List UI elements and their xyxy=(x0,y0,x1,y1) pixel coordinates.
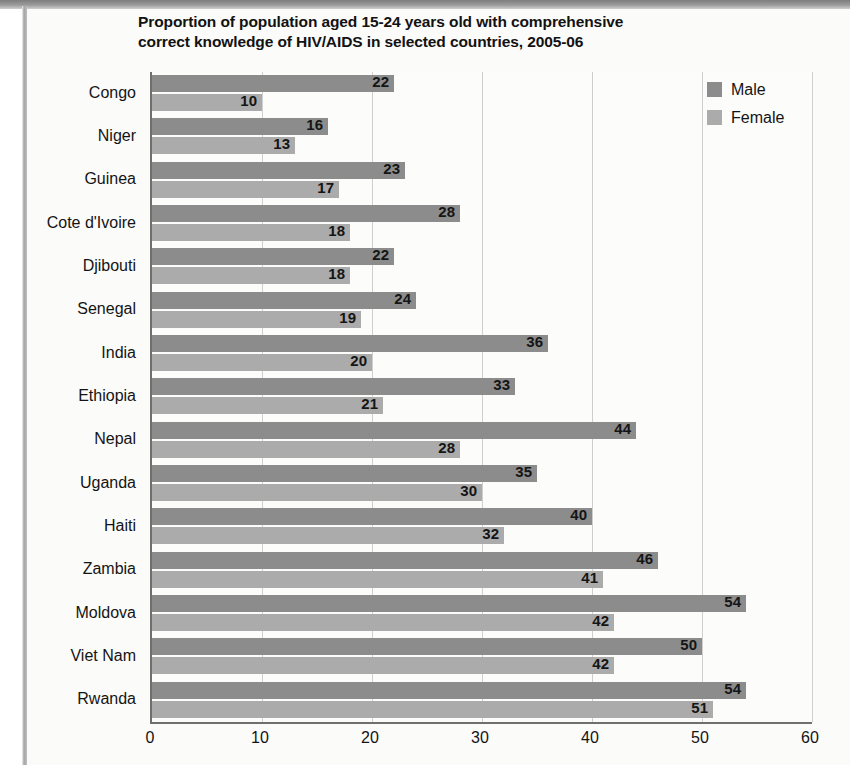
legend-swatch-icon xyxy=(707,82,722,97)
bar-value-label: 22 xyxy=(372,246,394,263)
bar-male xyxy=(152,465,537,482)
bar-value-label: 44 xyxy=(614,420,636,437)
bar-value-label: 36 xyxy=(526,333,548,350)
legend-item: Female xyxy=(707,108,827,127)
bar-value-label: 50 xyxy=(680,636,702,653)
bar-group: 2218 xyxy=(152,245,812,288)
bar-male xyxy=(152,205,460,222)
bar-male xyxy=(152,682,746,699)
legend-item: Male xyxy=(707,80,827,99)
bar-value-label: 30 xyxy=(460,482,482,499)
legend-label: Male xyxy=(731,81,766,99)
bar-value-label: 28 xyxy=(438,439,460,456)
bar-value-label: 28 xyxy=(438,203,460,220)
bar-value-label: 13 xyxy=(273,135,295,152)
bar-value-label: 10 xyxy=(240,92,262,109)
bar-group: 4032 xyxy=(152,505,812,548)
bar-group: 4428 xyxy=(152,419,812,462)
bar-group: 2818 xyxy=(152,202,812,245)
bar-female xyxy=(152,657,614,674)
bar-value-label: 42 xyxy=(592,655,614,672)
bar-male xyxy=(152,335,548,352)
country-label: Zambia xyxy=(0,560,136,578)
chart-legend: MaleFemale xyxy=(707,80,827,136)
x-tick-label: 10 xyxy=(251,729,269,747)
bar-female xyxy=(152,397,383,414)
bar-group: 3620 xyxy=(152,332,812,375)
country-label: Niger xyxy=(0,127,136,145)
country-label: Senegal xyxy=(0,300,136,318)
bar-group: 4641 xyxy=(152,549,812,592)
country-label: Cote d'Ivoire xyxy=(0,214,136,232)
bar-male xyxy=(152,638,702,655)
country-label: Haiti xyxy=(0,517,136,535)
country-label: Congo xyxy=(0,84,136,102)
bar-chart-figure: Proportion of population aged 15-24 year… xyxy=(0,0,850,765)
bar-female xyxy=(152,571,603,588)
country-label: Nepal xyxy=(0,430,136,448)
legend-label: Female xyxy=(731,109,784,127)
bar-male xyxy=(152,422,636,439)
bar-male xyxy=(152,118,328,135)
x-tick-label: 20 xyxy=(361,729,379,747)
gridline-60 xyxy=(812,72,813,722)
bar-value-label: 16 xyxy=(306,116,328,133)
bar-male xyxy=(152,552,658,569)
bar-female xyxy=(152,224,350,241)
country-label: Moldova xyxy=(0,604,136,622)
bar-group: 2317 xyxy=(152,159,812,202)
bar-value-label: 22 xyxy=(372,73,394,90)
country-label: Viet Nam xyxy=(0,647,136,665)
bar-value-label: 18 xyxy=(328,265,350,282)
country-label: Uganda xyxy=(0,474,136,492)
bar-female xyxy=(152,441,460,458)
bar-male xyxy=(152,292,416,309)
bar-value-label: 19 xyxy=(339,309,361,326)
bar-value-label: 35 xyxy=(515,463,537,480)
bar-group: 5042 xyxy=(152,635,812,678)
bar-male xyxy=(152,248,394,265)
country-label: Guinea xyxy=(0,170,136,188)
country-label: India xyxy=(0,344,136,362)
legend-swatch-icon xyxy=(707,110,722,125)
bar-value-label: 23 xyxy=(383,160,405,177)
bar-value-label: 32 xyxy=(482,525,504,542)
bar-value-label: 21 xyxy=(361,395,383,412)
bar-value-label: 46 xyxy=(636,550,658,567)
bar-group: 3321 xyxy=(152,375,812,418)
country-label: Ethiopia xyxy=(0,387,136,405)
bar-group: 5442 xyxy=(152,592,812,635)
bar-value-label: 51 xyxy=(691,699,713,716)
chart-title: Proportion of population aged 15-24 year… xyxy=(138,12,778,53)
chart-title-line-2: correct knowledge of HIV/AIDS in selecte… xyxy=(138,32,778,52)
plot-area: 2210161323172818221824193620332144283530… xyxy=(150,72,812,724)
bar-group: 5451 xyxy=(152,679,812,722)
bar-female xyxy=(152,181,339,198)
bar-male xyxy=(152,378,515,395)
bar-female xyxy=(152,614,614,631)
bar-value-label: 42 xyxy=(592,612,614,629)
bar-value-label: 40 xyxy=(570,506,592,523)
country-label: Rwanda xyxy=(0,690,136,708)
chart-title-line-1: Proportion of population aged 15-24 year… xyxy=(138,12,778,32)
bar-male xyxy=(152,508,592,525)
x-tick-label: 60 xyxy=(801,729,819,747)
bar-value-label: 24 xyxy=(394,290,416,307)
bar-female xyxy=(152,267,350,284)
country-label: Djibouti xyxy=(0,257,136,275)
bar-value-label: 18 xyxy=(328,222,350,239)
bar-value-label: 54 xyxy=(724,680,746,697)
bar-value-label: 17 xyxy=(317,179,339,196)
x-tick-label: 30 xyxy=(471,729,489,747)
bar-group: 3530 xyxy=(152,462,812,505)
bar-value-label: 41 xyxy=(581,569,603,586)
bar-female xyxy=(152,354,372,371)
bar-value-label: 33 xyxy=(493,376,515,393)
bar-male xyxy=(152,162,405,179)
bar-female xyxy=(152,311,361,328)
bar-female xyxy=(152,701,713,718)
bar-value-label: 20 xyxy=(350,352,372,369)
bar-female xyxy=(152,484,482,501)
bar-male xyxy=(152,595,746,612)
x-tick-label: 40 xyxy=(581,729,599,747)
